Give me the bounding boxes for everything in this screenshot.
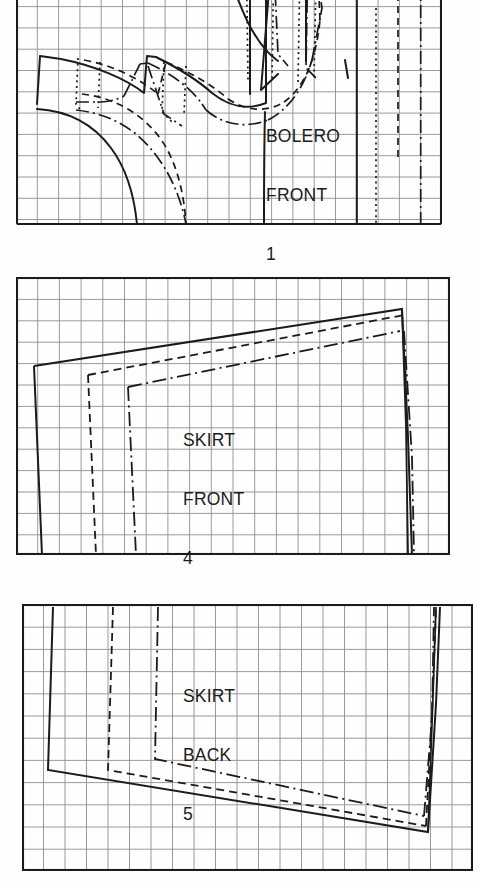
skirt-back-outline-dashdot (155, 607, 434, 816)
bolero-front-drawing (16, 0, 442, 225)
pattern-sheet: BOLERO FRONT 1 (0, 0, 482, 887)
bolero-piece-number: 1 (266, 245, 340, 265)
skirt-back-drawing (22, 604, 473, 871)
grid-lines (16, 0, 442, 225)
panel-skirt-front: SKIRT FRONT 4 (16, 277, 450, 555)
bolero-outline-dashed (82, 0, 398, 224)
grid-lines (22, 604, 473, 871)
panel-bolero-front: BOLERO FRONT 1 (16, 0, 442, 225)
bolero-outline-dotted (76, 0, 376, 224)
bolero-outline-dashdot (76, 0, 421, 224)
skirt-back-outline-solid (48, 607, 440, 832)
skirt-front-outline-dashdot (128, 331, 414, 555)
panel-skirt-back: SKIRT BACK 5 (22, 604, 473, 871)
panel-frame (23, 605, 472, 870)
skirt-front-drawing (16, 277, 450, 555)
